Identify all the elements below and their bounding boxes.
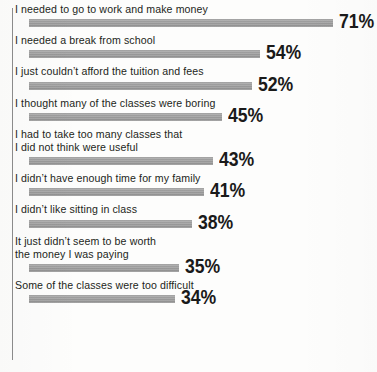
bar-track: 52% bbox=[15, 80, 377, 94]
chart-rows: I needed to go to work and make money71%… bbox=[0, 0, 377, 307]
bar bbox=[29, 264, 179, 272]
bar-value-label: 34% bbox=[181, 287, 216, 308]
bar-row: I needed a break from school54% bbox=[0, 31, 377, 62]
bar-value-label: 41% bbox=[210, 180, 245, 201]
bar bbox=[29, 188, 204, 196]
bar-row: I didn’t have enough time for my family4… bbox=[0, 169, 377, 200]
bar-row: I didn’t like sitting in class38% bbox=[0, 200, 377, 231]
bar-track: 38% bbox=[15, 218, 377, 232]
bar-category-label: I needed to go to work and make money bbox=[15, 0, 377, 17]
bar bbox=[29, 82, 252, 90]
bar-value-label: 38% bbox=[198, 212, 233, 233]
bar-category-label: I didn’t have enough time for my family bbox=[15, 169, 377, 186]
bar-track: 45% bbox=[15, 111, 377, 125]
bar bbox=[29, 220, 192, 228]
bar-track: 71% bbox=[15, 17, 377, 31]
bar-row: I needed to go to work and make money71% bbox=[0, 0, 377, 31]
bar-value-label: 45% bbox=[228, 105, 263, 126]
bar bbox=[29, 19, 333, 27]
horizontal-bar-chart: I needed to go to work and make money71%… bbox=[0, 0, 377, 372]
bar-category-label: I just couldn’t afford the tuition and f… bbox=[15, 62, 377, 79]
bar-value-label: 52% bbox=[258, 74, 293, 95]
bar-value-label: 43% bbox=[219, 149, 254, 170]
bar bbox=[29, 50, 260, 58]
bar-track: 54% bbox=[15, 48, 377, 62]
bar bbox=[29, 113, 222, 121]
bar-track: 35% bbox=[15, 262, 377, 276]
bar-value-label: 71% bbox=[339, 11, 374, 32]
bar-track: 34% bbox=[15, 293, 377, 307]
bar-category-label: I thought many of the classes were borin… bbox=[15, 94, 377, 111]
bar-value-label: 35% bbox=[185, 256, 220, 277]
bar-row: I just couldn’t afford the tuition and f… bbox=[0, 62, 377, 93]
bar-row: I thought many of the classes were borin… bbox=[0, 94, 377, 125]
bar-row: It just didn’t seem to be worth the mone… bbox=[0, 232, 377, 276]
bar-value-label: 54% bbox=[266, 42, 301, 63]
bar bbox=[29, 157, 213, 165]
bar-row: Some of the classes were too difficult34… bbox=[0, 276, 377, 307]
bar-category-label: I needed a break from school bbox=[15, 31, 377, 48]
bar-track: 43% bbox=[15, 155, 377, 169]
bar-row: I had to take too many classes that I di… bbox=[0, 125, 377, 169]
bar-category-label: I had to take too many classes that I di… bbox=[15, 125, 377, 155]
bar-category-label: I didn’t like sitting in class bbox=[15, 200, 377, 217]
bar-track: 41% bbox=[15, 186, 377, 200]
bar bbox=[29, 295, 175, 303]
